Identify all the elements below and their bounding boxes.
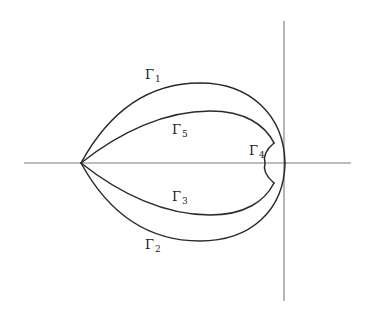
label-gamma3-symbol: Γ — [172, 189, 181, 204]
label-gamma4-subscript: 4 — [259, 150, 265, 160]
label-gamma1: Γ1 — [145, 68, 161, 81]
contour-diagram — [0, 0, 365, 312]
label-gamma2: Γ2 — [145, 238, 161, 251]
label-gamma4: Γ4 — [249, 144, 265, 157]
label-gamma2-subscript: 2 — [155, 244, 161, 254]
label-gamma5: Γ5 — [172, 123, 188, 136]
label-gamma5-symbol: Γ — [172, 122, 181, 137]
label-gamma1-symbol: Γ — [145, 67, 154, 82]
label-gamma1-subscript: 1 — [155, 74, 161, 84]
label-gamma2-symbol: Γ — [145, 237, 154, 252]
label-gamma3: Γ3 — [172, 190, 188, 203]
label-gamma3-subscript: 3 — [182, 196, 188, 206]
curve-gamma5 — [81, 111, 274, 163]
label-gamma4-symbol: Γ — [249, 143, 258, 158]
label-gamma5-subscript: 5 — [182, 129, 188, 139]
